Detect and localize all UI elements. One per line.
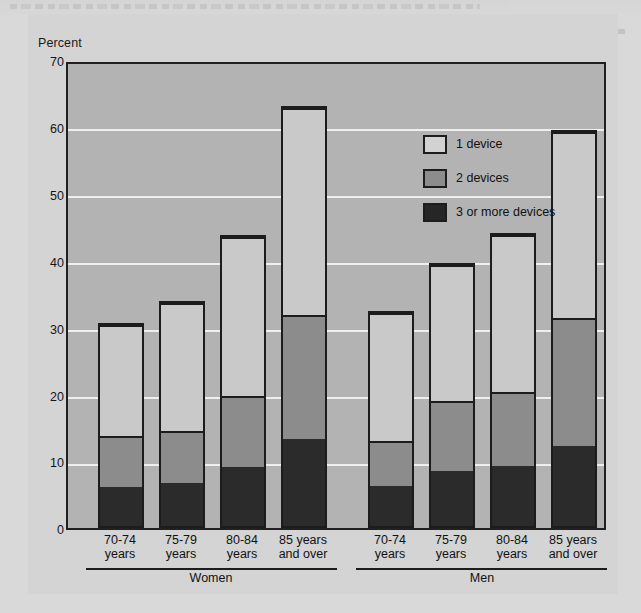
- y-tick-70: 70: [28, 56, 64, 69]
- chart-legend: 1 device 2 devices 3 or more devices: [423, 130, 613, 232]
- x-axis-labels: 70-74 years 75-79 years 80-84 years 85 y…: [66, 533, 606, 593]
- legend-label-3-or-more-devices: 3 or more devices: [456, 205, 555, 219]
- bar-men-70-74[interactable]: [368, 311, 414, 528]
- legend-item-1-device[interactable]: 1 device: [423, 130, 613, 158]
- y-tick-20: 20: [28, 391, 64, 404]
- bar-seg-1-device: [283, 108, 325, 316]
- group-rule-men: [356, 568, 607, 570]
- bar-seg-1-device: [222, 237, 264, 396]
- bar-seg-3-or-more: [222, 467, 264, 526]
- y-tick-30: 30: [28, 324, 64, 337]
- bar-seg-3-or-more: [492, 466, 534, 526]
- bar-seg-1-device: [492, 235, 534, 392]
- legend-item-2-devices[interactable]: 2 devices: [423, 164, 613, 192]
- y-tick-50: 50: [28, 190, 64, 203]
- bar-seg-1-device: [161, 303, 203, 431]
- x-label-men-85-and-over: 85 years and over: [536, 533, 610, 561]
- plot-area: 1 device 2 devices 3 or more devices: [66, 62, 606, 530]
- bar-women-85-and-over[interactable]: [281, 106, 327, 529]
- figure-panel: Percent 70 60 50 40 30 20 10 0: [28, 14, 618, 594]
- bar-women-70-74[interactable]: [98, 323, 144, 528]
- y-tick-10: 10: [28, 457, 64, 470]
- legend-label-2-devices: 2 devices: [456, 171, 509, 185]
- group-label-men: Men: [422, 571, 542, 585]
- bar-seg-3-or-more: [100, 487, 142, 526]
- bar-seg-2-devices: [100, 436, 142, 487]
- bar-women-80-84[interactable]: [220, 235, 266, 528]
- bar-seg-2-devices: [222, 396, 264, 467]
- bar-seg-2-devices: [370, 441, 412, 486]
- bar-men-75-79[interactable]: [429, 263, 475, 528]
- x-label-line2: and over: [536, 547, 610, 561]
- bar-seg-1-device: [431, 265, 473, 401]
- bar-men-80-84[interactable]: [490, 233, 536, 528]
- x-label-line2: and over: [266, 547, 340, 561]
- legend-swatch-2-devices: [423, 169, 447, 188]
- y-tick-40: 40: [28, 257, 64, 270]
- x-label-line1: 85 years: [266, 533, 340, 547]
- y-axis-title: Percent: [38, 36, 82, 50]
- y-tick-0: 0: [28, 524, 64, 537]
- bar-seg-3-or-more: [370, 486, 412, 526]
- bar-seg-3-or-more: [553, 446, 595, 526]
- plot-inner: 1 device 2 devices 3 or more devices: [68, 64, 604, 528]
- y-tick-60: 60: [28, 123, 64, 136]
- bar-seg-1-device: [100, 325, 142, 436]
- bar-seg-2-devices: [431, 401, 473, 471]
- page-scan-bleed-top: [0, 0, 641, 14]
- bar-seg-2-devices: [553, 318, 595, 446]
- bar-seg-2-devices: [492, 392, 534, 466]
- bar-seg-3-or-more: [431, 471, 473, 526]
- legend-label-1-device: 1 device: [456, 137, 503, 151]
- legend-swatch-3-or-more-devices: [423, 203, 447, 222]
- bar-seg-1-device: [370, 313, 412, 440]
- group-rule-women: [86, 568, 337, 570]
- ghost-text-line: [10, 4, 480, 9]
- group-label-women: Women: [151, 571, 271, 585]
- bar-seg-2-devices: [283, 315, 325, 438]
- x-label-line1: 85 years: [536, 533, 610, 547]
- bar-seg-2-devices: [161, 431, 203, 483]
- bar-women-75-79[interactable]: [159, 301, 205, 528]
- legend-swatch-1-device: [423, 135, 447, 154]
- bar-seg-3-or-more: [283, 439, 325, 526]
- legend-item-3-or-more-devices[interactable]: 3 or more devices: [423, 198, 613, 226]
- bar-seg-3-or-more: [161, 483, 203, 526]
- x-label-women-85-and-over: 85 years and over: [266, 533, 340, 561]
